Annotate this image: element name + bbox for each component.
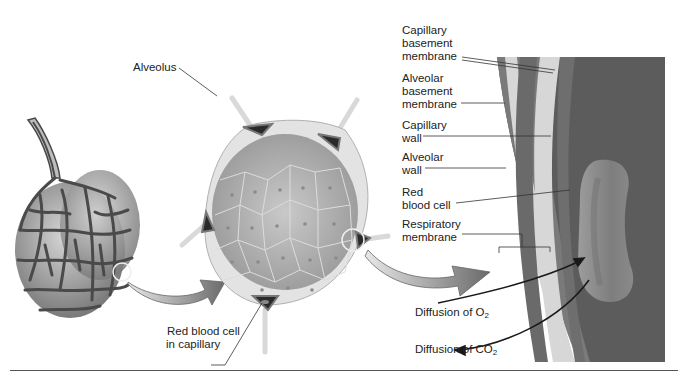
label-alveolar-wall: Alveolar wall [402, 151, 444, 177]
zoom-arrow-1 [128, 280, 225, 305]
label-diffusion-o2: Diffusion of O2 [415, 306, 489, 322]
label-alveolus: Alveolus [133, 61, 176, 74]
label-rbc-in-capillary-line1: Red blood cell [167, 325, 240, 338]
label-red-blood-cell: Red blood cell [402, 186, 451, 212]
label-capillary-wall: Capillary wall [402, 119, 447, 145]
bottom-divider [10, 370, 678, 371]
respiratory-membrane-panel [497, 57, 665, 362]
label-diffusion-co2: Diffusion of CO2 [415, 343, 497, 359]
zoom-arrow-2 [365, 250, 490, 296]
label-capillary-basement-membrane: Capillary basement membrane [402, 24, 457, 63]
label-rbc-in-capillary-line2: in capillary [166, 338, 220, 351]
diagram-artwork [0, 0, 678, 379]
alveolus-illustration [182, 98, 388, 352]
label-respiratory-membrane: Respiratory membrane [402, 218, 461, 244]
label-alveolar-basement-membrane: Alveolar basement membrane [402, 72, 457, 111]
red-blood-cell-shape [578, 160, 633, 302]
alveolar-sac-illustration [15, 118, 140, 318]
